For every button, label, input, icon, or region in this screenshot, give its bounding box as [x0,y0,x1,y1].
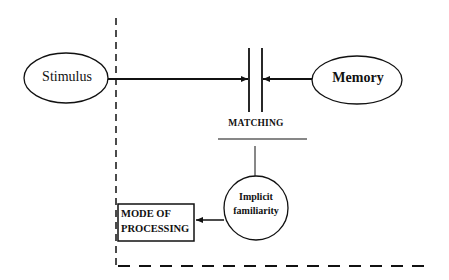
implicit-familiarity-label: Implicit familiarity [224,190,288,218]
matching-label: MATCHING [206,118,306,128]
memory-label: Memory [314,70,402,86]
implicit-familiarity-line2: familiarity [224,204,288,218]
mode-of-processing-line1: MODE OF [121,206,193,221]
implicit-familiarity-line1: Implicit [224,190,288,204]
stimulus-label: Stimulus [25,69,109,85]
mode-of-processing-line2: PROCESSING [121,221,193,236]
mode-of-processing-label: MODE OF PROCESSING [121,206,193,236]
diagram-canvas [0,0,449,280]
